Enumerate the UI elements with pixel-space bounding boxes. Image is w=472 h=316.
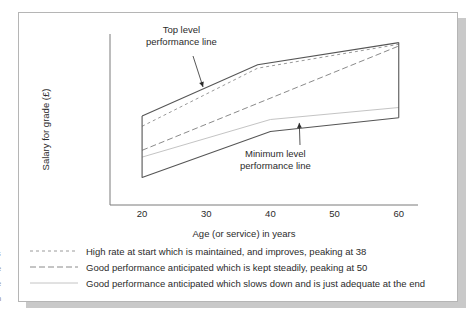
legend-label: High rate at start which is maintained, … — [86, 246, 366, 257]
annotation-line: performance line — [240, 160, 311, 172]
legend-swatch-solid-light — [30, 278, 78, 288]
annotation-line: Top level — [146, 24, 217, 36]
minimum-level-annotation: Minimum level performance line — [240, 148, 311, 172]
legend-swatch-long-dashed — [30, 262, 78, 272]
margin-fragment: s — [0, 246, 14, 261]
x-tick-label-20: 20 — [129, 208, 155, 219]
legend-label: Good performance anticipated which is ke… — [86, 262, 367, 273]
annotation-line: Minimum level — [240, 148, 311, 160]
high-rate-maintained-line — [142, 44, 399, 126]
legend-item-slowing: Good performance anticipated which slows… — [18, 275, 458, 291]
good-performance-steady-line — [142, 46, 399, 150]
axes — [110, 34, 418, 205]
annotation-line: performance line — [146, 36, 217, 48]
x-tick-label-60: 60 — [386, 208, 412, 219]
page-margin-text-fragments: s e e n — [0, 246, 14, 308]
top-level-performance-line — [142, 43, 399, 117]
legend-item-steady: Good performance anticipated which is ke… — [18, 259, 458, 275]
y-axis-label: Salary for grade (£) — [40, 75, 51, 185]
legend-item-high-rate: High rate at start which is maintained, … — [18, 243, 458, 259]
x-tick-label-30: 30 — [193, 208, 219, 219]
x-tick-label-40: 40 — [257, 208, 283, 219]
legend-swatch-fine-dashed — [30, 246, 78, 256]
minimum-level-annotation-arrow-head — [297, 123, 302, 128]
legend-label: Good performance anticipated which slows… — [86, 278, 425, 289]
top-level-annotation-arrow-head — [199, 82, 204, 87]
x-axis-label: Age (or service) in years — [114, 228, 374, 239]
margin-fragment: e — [0, 276, 14, 291]
top-level-annotation: Top level performance line — [146, 24, 217, 48]
chart-legend: High rate at start which is maintained, … — [18, 243, 458, 291]
margin-fragment: e — [0, 261, 14, 276]
margin-fragment: n — [0, 291, 14, 306]
x-tick-label-50: 50 — [322, 208, 348, 219]
